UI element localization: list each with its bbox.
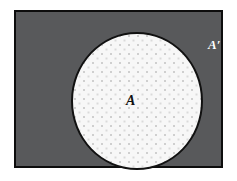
- set-a-label: A: [126, 94, 135, 108]
- universal-set-rectangle: A A′: [14, 10, 223, 168]
- set-a-circle: [71, 32, 203, 170]
- set-diagram: A A′: [0, 0, 237, 181]
- set-a-complement-label: A′: [208, 38, 220, 51]
